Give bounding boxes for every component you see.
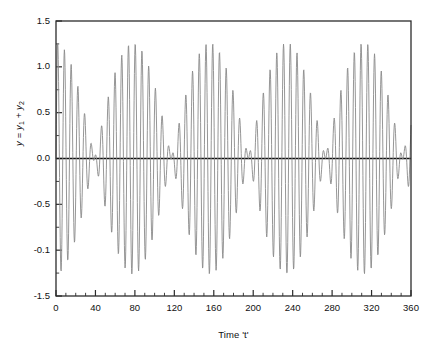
x-tick-label: 200 bbox=[233, 302, 273, 313]
y-axis-title-y: y bbox=[13, 141, 24, 146]
y-axis-title-sub2: 2 bbox=[18, 101, 25, 105]
y-axis-title-eq: = bbox=[13, 130, 24, 141]
beat-waveform-plot bbox=[0, 0, 433, 350]
x-tick-label: 80 bbox=[115, 302, 155, 313]
x-tick-label: 360 bbox=[391, 302, 431, 313]
y-axis-title-y2: y bbox=[13, 105, 24, 110]
x-tick-label: 120 bbox=[154, 302, 194, 313]
x-tick-label: 280 bbox=[312, 302, 352, 313]
y-axis-title-sub1: 1 bbox=[18, 121, 25, 125]
y-axis-title-y1: y bbox=[13, 125, 24, 130]
y-tick-label: 1.5 bbox=[16, 15, 50, 26]
x-tick-label: 320 bbox=[352, 302, 392, 313]
y-tick-label: -0.1 bbox=[16, 244, 50, 255]
y-tick-label: -1.5 bbox=[16, 290, 50, 301]
x-tick-label: 0 bbox=[36, 302, 76, 313]
x-axis-title: Time 't' bbox=[56, 329, 411, 340]
x-tick-label: 240 bbox=[273, 302, 313, 313]
chart-figure: 1.51.00.50.0-0.5-0.1-1.5 040801201602002… bbox=[0, 0, 433, 350]
x-tick-label: 160 bbox=[194, 302, 234, 313]
x-tick-label: 40 bbox=[75, 302, 115, 313]
y-axis-title-plus: + bbox=[13, 110, 24, 121]
y-axis-title: y = y1 + y2 bbox=[13, 76, 24, 172]
y-tick-label: 1.0 bbox=[16, 60, 50, 71]
y-tick-label: -0.5 bbox=[16, 198, 50, 209]
